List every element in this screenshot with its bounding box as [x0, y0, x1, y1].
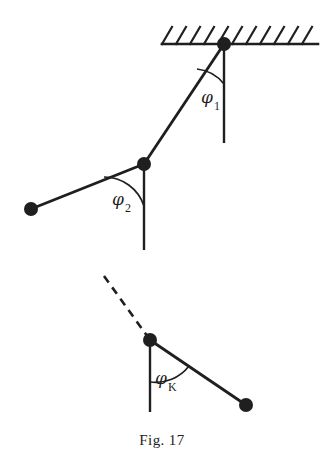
angle-label-phi1-subscript: 1 [214, 99, 220, 113]
mechanism-diagram: φ 1 φ 2 φ K [0, 0, 324, 472]
angle-label-phiK-symbol: φ [155, 368, 167, 388]
joint-nodes [24, 37, 253, 412]
angle-label-phi2-symbol: φ [112, 189, 124, 209]
node-end-left [24, 202, 38, 216]
node-joint-k [143, 333, 157, 347]
node-end-right [239, 398, 253, 412]
node-joint-middle [137, 157, 151, 171]
node-pivot-top [217, 37, 231, 51]
figure-container: φ 1 φ 2 φ K Fig. 17 [0, 0, 324, 472]
dashed-continuation-line [104, 276, 150, 340]
angle-arcs [104, 69, 224, 382]
angle-label-phi2-subscript: 2 [125, 201, 131, 215]
angle-label-phi1-symbol: φ [201, 87, 213, 107]
ceiling-hatching [162, 27, 312, 44]
figure-caption: Fig. 17 [0, 432, 324, 449]
angle-label-phiK-subscript: K [168, 380, 177, 394]
ceiling-support [162, 27, 318, 44]
angle-arc-phi2 [104, 177, 144, 206]
